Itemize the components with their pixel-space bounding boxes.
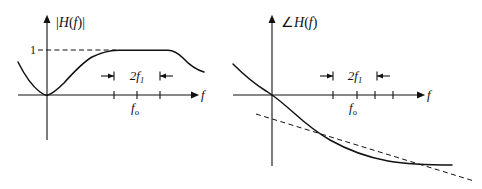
phase-fo-subscript: o [353,107,357,117]
angle-icon: ∠ [281,15,294,30]
magnitude-axis-title: |H(f)| [56,15,85,31]
phase-x-tick-label: fo [349,100,357,117]
phase-axis-title: ∠H(f) [281,15,318,31]
phase-bandwidth-label: 2f1 [348,68,362,85]
magnitude-curve [18,50,204,95]
magnitude-bandwidth-subscript: 1 [140,75,144,85]
magnitude-fo-subscript: o [135,107,139,117]
magnitude-y-tick-label: 1 [30,43,36,57]
phase-bandwidth-subscript: 1 [358,75,362,85]
figure-canvas: |H(f)| 1 2f1 fo f ∠H(f) 2f1 fo f [0,0,482,189]
phase-response-plot [233,22,474,181]
magnitude-x-tick-label: fo [131,100,139,117]
phase-title-paren-close: ) [313,15,318,31]
magnitude-title-bar-right: | [82,15,85,30]
phase-asymptote-dashed-line [256,114,474,181]
magnitude-response-plot [18,22,204,140]
phase-x-axis-label: f [427,87,433,102]
phase-curve [233,64,452,165]
signal-response-figure: |H(f)| 1 2f1 fo f ∠H(f) 2f1 fo f [0,0,482,189]
magnitude-bandwidth-label: 2f1 [130,68,144,85]
magnitude-x-axis-label: f [201,87,207,102]
